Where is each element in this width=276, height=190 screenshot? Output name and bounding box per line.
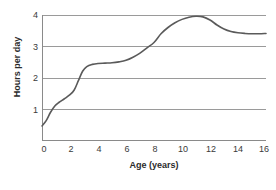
chart-figure: Hours per day 4 3 2 1 0 2 4 6 8 10 12 14… bbox=[0, 0, 276, 190]
plot-area bbox=[0, 0, 276, 190]
gridlines bbox=[42, 16, 266, 110]
